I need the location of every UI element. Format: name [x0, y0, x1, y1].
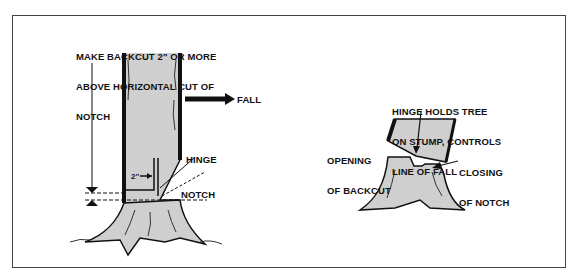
fall-label: FALL	[237, 95, 261, 105]
hinge-label: HINGE	[186, 155, 217, 165]
closing-line-1: CLOSING	[459, 168, 509, 178]
closing-line-2: OF NOTCH	[459, 198, 509, 208]
notch-label: NOTCH	[181, 190, 215, 200]
instruction-line-3: NOTCH	[76, 112, 216, 122]
closing-label: CLOSING OF NOTCH	[459, 148, 509, 218]
opening-line-1: OPENING	[327, 156, 391, 166]
opening-line-2: OF BACKCUT	[327, 186, 391, 196]
instruction-line-2: ABOVE HORIZONTAL CUT OF	[76, 82, 216, 92]
hinge-note-line-2: ON STUMP, CONTROLS	[392, 137, 501, 147]
backcut-instruction: MAKE BACKCUT 2" OR MORE ABOVE HORIZONTAL…	[76, 32, 216, 132]
measure-label: 2"	[131, 172, 139, 182]
opening-label: OPENING OF BACKCUT	[327, 136, 391, 206]
instruction-line-1: MAKE BACKCUT 2" OR MORE	[76, 52, 216, 62]
left-tree-roots	[85, 200, 205, 255]
hinge-note-line-1: HINGE HOLDS TREE	[392, 107, 501, 117]
